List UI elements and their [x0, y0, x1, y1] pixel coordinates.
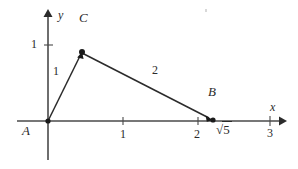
segment-AC — [48, 52, 84, 121]
x-tick-label-2: 2 — [194, 128, 200, 140]
vertex-dot-C — [79, 49, 85, 55]
y-axis-arrowhead — [44, 9, 53, 17]
radical-radicand: 5 — [222, 121, 232, 138]
sqrt-annotation: √5 — [216, 121, 232, 138]
scan-speck — [205, 9, 207, 12]
y-axis-label: y — [58, 9, 63, 21]
point-label-B: B — [208, 85, 216, 98]
x-axis-label: x — [270, 101, 275, 113]
segment-length-CB: 2 — [152, 64, 158, 76]
x-axis — [17, 116, 287, 126]
figure-canvas — [0, 0, 298, 169]
segment-CB-line — [82, 53, 209, 118]
geometry-figure: y x 1 1 2 3 A B C 1 2 √5 — [0, 0, 298, 169]
vertex-dot-B — [210, 117, 215, 122]
x-tick-label-1: 1 — [120, 128, 126, 140]
vertex-dot-A — [45, 118, 50, 123]
point-label-C: C — [79, 11, 88, 24]
x-tick-label-3: 3 — [267, 127, 273, 139]
x-axis-arrowhead — [279, 117, 287, 126]
segment-CB — [82, 53, 213, 122]
segment-length-AC: 1 — [53, 65, 59, 77]
point-label-A: A — [22, 124, 30, 137]
y-tick-label-1: 1 — [31, 38, 37, 50]
y-axis — [44, 9, 54, 160]
